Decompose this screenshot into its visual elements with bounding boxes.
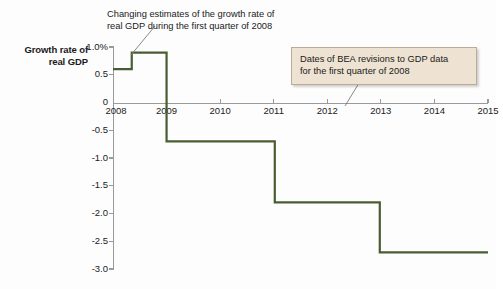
y-tick-label: -2.5	[48, 235, 108, 246]
y-tick-label: -1.5	[48, 179, 108, 190]
y-tick-label: -0.5	[48, 124, 108, 135]
y-tick-label: -3.0	[48, 263, 108, 274]
y-tick-label: -1.0	[48, 152, 108, 163]
bea-note-callout: Dates of BEA revisions to GDP data for t…	[291, 47, 477, 85]
y-tick-label: 1.0%	[48, 41, 108, 52]
y-tick-label: -2.0	[48, 207, 108, 218]
y-tick-label: 0.5	[48, 68, 108, 79]
bea-note-text: Dates of BEA revisions to GDP data for t…	[300, 54, 468, 77]
growth-note-annotation: Changing estimates of the growth rate of…	[107, 9, 357, 32]
